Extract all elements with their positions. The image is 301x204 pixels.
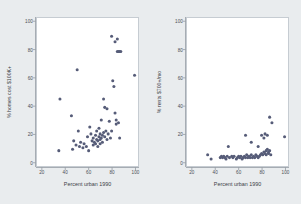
data-point — [262, 137, 265, 140]
data-point — [81, 146, 84, 149]
data-point — [75, 144, 78, 147]
data-point — [119, 50, 122, 53]
y-axis-title-homes: % homes cost $100K+ — [6, 66, 12, 118]
data-point — [103, 135, 106, 138]
data-point — [85, 145, 88, 148]
scatter-plot-figure: 20406080100 020406080100 Percent urban 1… — [0, 0, 301, 204]
data-point — [266, 134, 269, 137]
data-point — [95, 130, 98, 133]
data-point — [109, 137, 112, 140]
y-tick-label: 100 — [172, 19, 183, 24]
x-tick-label: 20 — [39, 170, 44, 175]
y-tick-label: 80 — [172, 47, 183, 52]
x-tick-label: 80 — [259, 170, 264, 175]
data-point — [111, 79, 114, 82]
data-point — [104, 130, 107, 133]
y-tick-label: 40 — [172, 104, 183, 109]
data-point — [270, 121, 273, 124]
y-tick-label: 20 — [22, 132, 33, 137]
y-tick-label: 40 — [22, 104, 33, 109]
data-point — [70, 114, 73, 117]
data-point — [244, 134, 247, 137]
data-point — [116, 37, 119, 40]
data-point — [112, 85, 115, 88]
plot-area-homes — [36, 17, 139, 167]
scatter-points-rents — [187, 18, 288, 166]
data-point — [94, 134, 97, 137]
data-point — [257, 145, 260, 148]
data-point — [57, 149, 60, 152]
data-point — [118, 137, 121, 140]
data-point — [107, 132, 110, 135]
data-point — [133, 74, 136, 77]
data-point — [105, 138, 108, 141]
y-tick-label: 80 — [22, 47, 33, 52]
x-tick-label: 20 — [189, 170, 194, 175]
data-point — [101, 141, 104, 144]
data-point — [233, 155, 236, 158]
data-point — [76, 68, 79, 71]
data-point — [227, 145, 230, 148]
y-tick-label: 60 — [172, 75, 183, 80]
x-tick-label: 40 — [213, 170, 218, 175]
data-point — [100, 137, 103, 140]
y-tick-label: 100 — [22, 19, 33, 24]
data-point — [83, 142, 86, 145]
data-point — [114, 111, 117, 114]
data-point — [77, 130, 80, 133]
data-point — [92, 137, 95, 140]
data-point — [108, 120, 111, 123]
data-point — [115, 118, 118, 121]
data-point — [78, 145, 81, 148]
data-point — [79, 141, 82, 144]
data-point — [89, 132, 92, 135]
y-tick-label: 0 — [22, 160, 33, 165]
x-axis-title-homes: Percent urban 1990 — [36, 181, 139, 187]
scatter-points-homes — [37, 18, 138, 166]
data-point — [58, 97, 61, 100]
data-point — [110, 35, 113, 38]
homes-cost-panel: 20406080100 020406080100 Percent urban 1… — [0, 0, 150, 204]
y-tick-label: 20 — [172, 132, 183, 137]
data-point — [72, 139, 75, 142]
data-point — [86, 135, 89, 138]
y-tick-label: 0 — [172, 160, 183, 165]
x-tick-label: 60 — [86, 170, 91, 175]
data-point — [225, 157, 228, 160]
data-point — [250, 141, 253, 144]
x-tick-label: 60 — [236, 170, 241, 175]
x-tick-label: 100 — [132, 170, 140, 175]
data-point — [105, 107, 108, 110]
data-point — [260, 134, 263, 137]
data-point — [283, 135, 286, 138]
rents-panel: 20406080100 020406080100 Percent urban 1… — [150, 0, 300, 204]
data-point — [102, 97, 105, 100]
y-tick-label: 60 — [22, 75, 33, 80]
data-point — [114, 40, 117, 43]
data-point — [94, 142, 97, 145]
x-tick-label: 80 — [109, 170, 114, 175]
data-point — [210, 157, 213, 160]
data-point — [100, 118, 103, 121]
x-tick-label: 100 — [282, 170, 290, 175]
data-point — [268, 116, 271, 119]
data-point — [117, 121, 120, 124]
data-point — [268, 149, 271, 152]
data-point — [97, 127, 100, 130]
y-axis-title-rents: % rents $700+/mo — [156, 71, 162, 113]
data-point — [87, 149, 90, 152]
data-point — [88, 125, 91, 128]
data-point — [269, 153, 272, 156]
data-point — [110, 130, 113, 133]
plot-area-rents — [186, 17, 289, 167]
data-point — [71, 148, 74, 151]
data-point — [96, 145, 99, 148]
x-axis-title-rents: Percent urban 1990 — [186, 181, 289, 187]
data-point — [206, 153, 209, 156]
x-tick-label: 40 — [63, 170, 68, 175]
